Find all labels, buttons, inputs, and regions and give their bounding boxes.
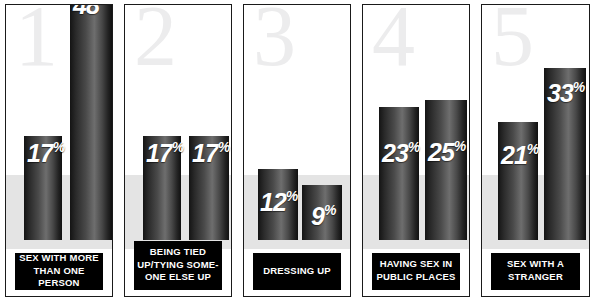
panel-1-caption: SEX WITH MORE THAN ONE PERSON bbox=[15, 253, 103, 290]
panel-1-caption-text: SEX WITH MORE THAN ONE PERSON bbox=[17, 252, 101, 290]
panel-5-caption: SEX WITH A STRANGER bbox=[491, 253, 580, 290]
bar-2-a: 17% bbox=[143, 136, 181, 240]
panel-4-caption: HAVING SEX IN PUBLIC PLACES bbox=[372, 253, 460, 290]
panel-3: 3 12% 9% DRESSING UP bbox=[238, 0, 357, 305]
bar-4-a: 23% bbox=[379, 107, 419, 240]
panel-3-frame: 3 12% 9% DRESSING UP bbox=[243, 4, 351, 297]
bar-5-a-value-label: 21% bbox=[501, 144, 538, 167]
bar-3-a-value-label: 12% bbox=[260, 191, 297, 214]
bar-5-b: 33% bbox=[544, 68, 586, 240]
panel-2: 2 17% 17% BEING TIED UP/TYING bbox=[119, 0, 238, 305]
bar-1-a: 17% bbox=[24, 136, 62, 240]
bar-3-b: 9% bbox=[302, 185, 342, 240]
bar-5-a: 21% bbox=[498, 122, 538, 240]
bar-2-b-value-label: 17% bbox=[192, 142, 229, 165]
panel-1: 1 17% 48% SEX WITH MORE THAN O bbox=[0, 0, 119, 305]
bar-1-a-value-label: 17% bbox=[27, 142, 64, 165]
panel-5-frame: 5 21% 33% SEX WITH A STRANGER bbox=[481, 4, 590, 297]
bar-4-a-value-label: 23% bbox=[382, 142, 419, 165]
panel-2-caption: BEING TIED UP/TYING SOME- ONE ELSE UP bbox=[134, 241, 222, 290]
panel-5-caption-text: SEX WITH A STRANGER bbox=[507, 258, 564, 283]
panel-3-caption: DRESSING UP bbox=[253, 253, 341, 290]
panel-2-caption-text: BEING TIED UP/TYING SOME- ONE ELSE UP bbox=[137, 246, 218, 284]
panel-4-caption-text: HAVING SEX IN PUBLIC PLACES bbox=[376, 258, 455, 283]
panel-5: 5 21% 33% SEX WITH A STRANGER bbox=[476, 0, 600, 305]
bar-3-b-value-label: 9% bbox=[311, 205, 335, 228]
panel-2-frame: 2 17% 17% BEING TIED UP/TYING bbox=[124, 4, 232, 297]
panel-4: 4 23% 25% HAVING SEX IN PUBLIC bbox=[357, 0, 476, 305]
bar-1-b: 48% bbox=[70, 4, 112, 240]
bar-4-b: 25% bbox=[425, 100, 467, 240]
bar-4-b-value-label: 25% bbox=[428, 141, 465, 164]
bar-2-a-value-label: 17% bbox=[146, 142, 183, 165]
bar-1-b-value-label: 48% bbox=[73, 4, 110, 17]
bar-5-b-value-label: 33% bbox=[547, 82, 584, 105]
panel-4-frame: 4 23% 25% HAVING SEX IN PUBLIC bbox=[362, 4, 470, 297]
bar-3-a: 12% bbox=[258, 169, 298, 240]
panel-1-frame: 1 17% 48% SEX WITH MORE THAN O bbox=[5, 4, 113, 297]
panel-row: 1 17% 48% SEX WITH MORE THAN O bbox=[0, 0, 605, 305]
panel-3-caption-text: DRESSING UP bbox=[263, 265, 331, 278]
survey-bar-chart-infographic: 1 17% 48% SEX WITH MORE THAN O bbox=[0, 0, 605, 305]
bar-2-b: 17% bbox=[189, 136, 229, 240]
